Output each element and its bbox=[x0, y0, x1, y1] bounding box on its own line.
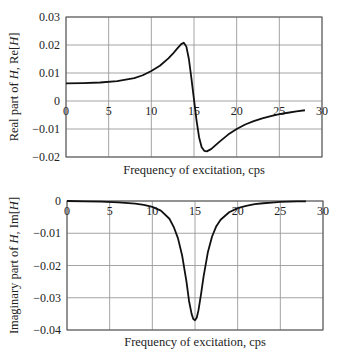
y-tick-label: −0.03 bbox=[33, 291, 61, 305]
imaginary-part-plot: 0−0.01−0.02−0.03−0.04 051015202530 Frequ… bbox=[7, 194, 329, 349]
x-tick-label: 5 bbox=[107, 204, 113, 218]
y-tick-label: 0 bbox=[54, 94, 60, 108]
real-part-grid bbox=[66, 17, 322, 157]
x-tick-label: 10 bbox=[145, 104, 157, 118]
real-part-x-axis-label: Frequency of excitation, cps bbox=[123, 163, 265, 177]
real-part-y-axis-label: Real part of H, Re[H] bbox=[7, 33, 21, 142]
x-tick-label: 30 bbox=[316, 104, 328, 118]
real-part-curve bbox=[66, 43, 305, 152]
imaginary-part-curve bbox=[67, 201, 306, 320]
x-tick-label: 25 bbox=[274, 204, 286, 218]
imaginary-part-y-axis-label: Imaginary part of H, Im[H] bbox=[7, 197, 21, 334]
x-tick-label: 15 bbox=[189, 204, 201, 218]
y-tick-label: 0.02 bbox=[39, 38, 60, 52]
y-tick-label: 0 bbox=[55, 194, 61, 208]
y-tick-label: −0.02 bbox=[32, 150, 60, 164]
y-tick-label: −0.01 bbox=[32, 122, 60, 136]
imaginary-part-y-ticks: 0−0.01−0.02−0.03−0.04 bbox=[33, 194, 61, 337]
y-tick-label: −0.04 bbox=[33, 323, 61, 337]
x-tick-label: 20 bbox=[231, 104, 243, 118]
y-tick-label: 0.03 bbox=[39, 10, 60, 24]
y-tick-label: 0.01 bbox=[39, 66, 60, 80]
imaginary-part-grid bbox=[67, 201, 323, 330]
y-tick-label: −0.01 bbox=[33, 226, 61, 240]
x-tick-label: 0 bbox=[64, 204, 70, 218]
x-tick-label: 30 bbox=[317, 204, 329, 218]
real-part-y-ticks: 0.030.020.010−0.01−0.02 bbox=[32, 10, 60, 164]
y-tick-label: −0.02 bbox=[33, 259, 61, 273]
x-tick-label: 0 bbox=[63, 104, 69, 118]
x-tick-label: 5 bbox=[106, 104, 112, 118]
imaginary-part-x-axis-label: Frequency of excitation, cps bbox=[124, 335, 266, 349]
imaginary-part-x-ticks: 051015202530 bbox=[64, 204, 329, 218]
real-part-plot: 0.030.020.010−0.01−0.02 051015202530 Fre… bbox=[7, 10, 328, 177]
frequency-response-figure: 0.030.020.010−0.01−0.02 051015202530 Fre… bbox=[0, 0, 339, 349]
